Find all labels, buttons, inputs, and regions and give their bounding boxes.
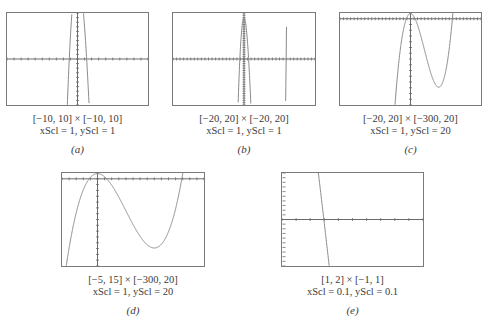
graph-plot-e	[282, 173, 423, 266]
window-label-e: [1, 2] × [−1, 1]	[253, 274, 453, 286]
graph-plot-d	[62, 173, 204, 266]
graph-screen-a	[6, 12, 149, 106]
window-label-d: [−5, 15] × [−300, 20]	[33, 274, 233, 286]
function-curve-b	[238, 18, 286, 104]
window-label-c: [−20, 20] × [−300, 20]	[311, 113, 493, 125]
scale-label-c: xScl = 1, yScl = 20	[311, 125, 493, 137]
panel-tag-c: (c)	[311, 143, 493, 155]
graph-screen-c	[339, 12, 482, 106]
function-curve-c	[395, 13, 453, 105]
scale-label-d: xScl = 1, yScl = 20	[33, 286, 233, 298]
graph-plot-b	[173, 13, 315, 105]
function-curve-d	[66, 173, 183, 266]
panel-tag-e: (e)	[253, 304, 453, 316]
graph-screen-d	[61, 172, 205, 267]
graph-plot-c	[340, 13, 481, 105]
scale-label-e: xScl = 0.1, yScl = 0.1	[253, 286, 453, 298]
panel-tag-d: (d)	[33, 304, 233, 316]
graph-screen-e	[281, 172, 424, 267]
graph-plot-a	[7, 13, 148, 105]
graph-screen-b	[172, 12, 316, 106]
